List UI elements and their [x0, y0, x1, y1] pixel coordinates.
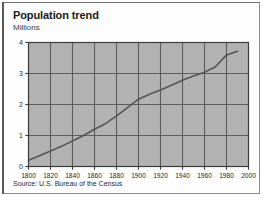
source-note: Source: U.S. Bureau of the Census: [13, 180, 122, 187]
figure-left-rule: [2, 2, 4, 194]
chart-title: Population trend: [13, 9, 99, 21]
chart-subtitle-units: Millions: [13, 23, 40, 32]
figure-frame: [2, 2, 260, 194]
figure-root: Population trend Millions 18001820184018…: [0, 0, 273, 203]
